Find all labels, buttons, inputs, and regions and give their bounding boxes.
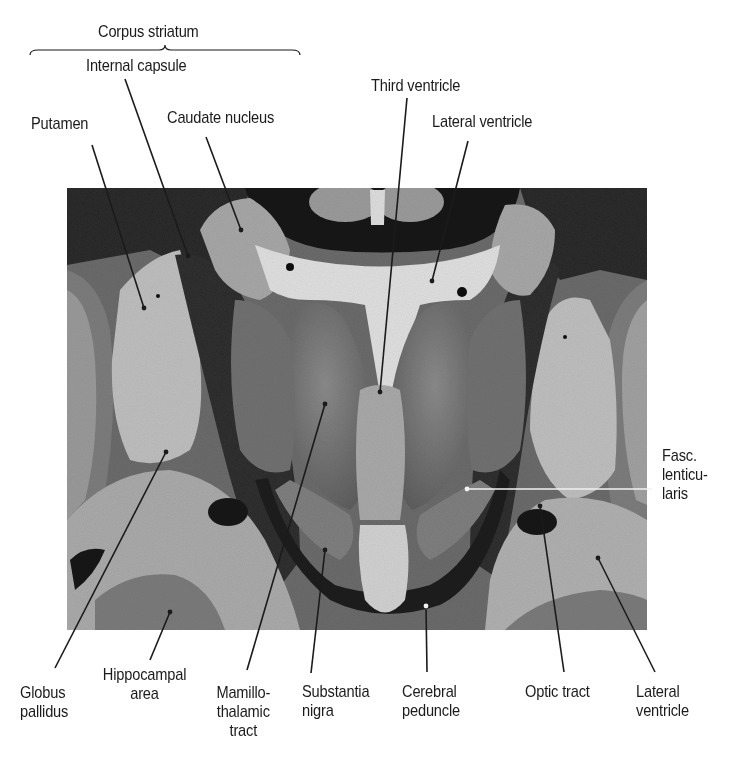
caudate-leader-endpoint-dot <box>239 228 244 233</box>
optic-tract-leader-endpoint-dot <box>538 504 543 509</box>
label-cerebral-peduncle: Cerebral peduncle <box>402 682 460 720</box>
globus-pallidus-leader-endpoint-dot <box>164 450 169 455</box>
cerebral-peduncle-leader <box>426 606 427 672</box>
fasc-lenticularis-leader-endpoint-dot <box>465 487 470 492</box>
lateral-ventricle-bottom-leader-endpoint-dot <box>596 556 601 561</box>
mamillothalamic-leader-endpoint-dot <box>323 402 328 407</box>
cerebral-peduncle-leader-endpoint-dot <box>424 604 429 609</box>
label-fasc-lenticularis: Fasc. lenticu- laris <box>662 446 708 503</box>
label-putamen: Putamen <box>31 114 88 133</box>
label-hippocampal-area: Hippocampal area <box>103 665 186 703</box>
third-ventricle-leader-endpoint-dot <box>378 390 383 395</box>
label-substantia-nigra: Substantia nigra <box>302 682 369 720</box>
label-globus-pallidus: Globus pallidus <box>20 683 68 721</box>
label-lateral-ventricle-bottom: Lateral ventricle <box>636 682 689 720</box>
corpus-striatum-bracket <box>30 45 300 55</box>
brain-section-photograph <box>0 0 745 759</box>
lateral-ventricle-top-leader-endpoint-dot <box>430 279 435 284</box>
label-internal-capsule: Internal capsule <box>86 56 186 75</box>
substantia-nigra-leader-endpoint-dot <box>323 548 328 553</box>
label-mamillothalamic-tract: Mamillo- thalamic tract <box>216 683 270 740</box>
internal-capsule-leader-endpoint-dot <box>186 254 191 259</box>
anatomy-figure: Corpus striatum Internal capsule Putamen… <box>0 0 745 759</box>
label-corpus-striatum: Corpus striatum <box>98 22 199 41</box>
tissue-section <box>67 182 647 630</box>
label-lateral-ventricle-top: Lateral ventricle <box>432 112 532 131</box>
label-optic-tract: Optic tract <box>525 682 590 701</box>
label-third-ventricle: Third ventricle <box>371 76 460 95</box>
hippocampal-leader-endpoint-dot <box>168 610 173 615</box>
putamen-leader-endpoint-dot <box>142 306 147 311</box>
label-caudate-nucleus: Caudate nucleus <box>167 108 274 127</box>
